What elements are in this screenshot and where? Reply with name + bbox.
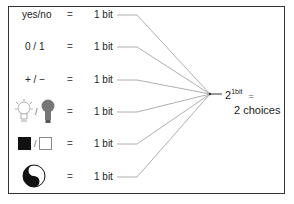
bit-value: 1 bit	[94, 171, 113, 183]
result-formula: 21bit =	[225, 88, 254, 101]
black-square-icon	[18, 137, 31, 150]
lightbulb-on-icon	[40, 98, 56, 126]
bit-value: 1 bit	[94, 9, 113, 21]
bit-value: 1 bit	[94, 74, 113, 86]
bit-value: 1 bit	[94, 138, 113, 150]
label-yes-no: yes/no	[22, 9, 51, 21]
label-plus-minus: + / −	[25, 74, 45, 86]
equals-sign: =	[67, 41, 73, 53]
result-exponent: 1bit	[231, 88, 242, 95]
result-choices: 2 choices	[234, 104, 280, 116]
result-equals: =	[248, 91, 253, 101]
separator-slash: /	[35, 106, 38, 118]
lightbulb-off-icon	[14, 98, 34, 126]
equals-sign: =	[67, 171, 73, 183]
white-square-icon	[39, 137, 52, 150]
yin-yang-icon	[22, 164, 46, 188]
label-zero-one: 0 / 1	[25, 41, 44, 53]
equals-sign: =	[67, 74, 73, 86]
bit-value: 1 bit	[94, 106, 113, 118]
equals-sign: =	[67, 106, 73, 118]
equals-sign: =	[67, 9, 73, 21]
equals-sign: =	[67, 138, 73, 150]
bit-value: 1 bit	[94, 41, 113, 53]
separator-slash: /	[34, 138, 37, 150]
